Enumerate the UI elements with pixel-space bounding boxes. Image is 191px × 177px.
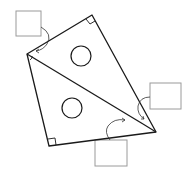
- right-angle-marker-top: [86, 19, 95, 24]
- bottom-label-box[interactable]: [95, 140, 127, 166]
- kite-shape: [27, 15, 156, 146]
- arrow-right-box: [138, 97, 150, 119]
- kite-diagram: [0, 0, 191, 177]
- top-left-label-box[interactable]: [16, 11, 41, 36]
- lower-circle: [62, 98, 82, 118]
- right-angle-marker-bottom: [48, 138, 56, 145]
- right-label-box[interactable]: [150, 83, 181, 109]
- diagram-canvas: [0, 0, 191, 177]
- upper-circle: [71, 46, 91, 66]
- diagonal-line: [27, 54, 143, 124]
